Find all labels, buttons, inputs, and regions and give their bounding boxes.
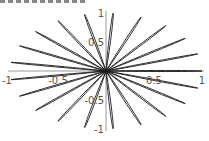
polar-rose-chart: -1-0.50.51 10.5-0.5-1 [0, 0, 209, 141]
rose-petal [106, 54, 198, 71]
rose-petal [106, 38, 185, 71]
x-tick-label: 0.5 [146, 75, 162, 86]
x-tick-label: -0.5 [48, 75, 68, 86]
y-tick-label: 0.5 [88, 37, 104, 48]
y-tick-label: 1 [98, 8, 104, 19]
x-tick-label: 1 [199, 75, 205, 86]
rose-petal [106, 26, 166, 71]
x-tick-label: -1 [2, 75, 12, 86]
y-tick-label: -0.5 [84, 95, 104, 106]
y-tick-label: -1 [94, 124, 104, 135]
